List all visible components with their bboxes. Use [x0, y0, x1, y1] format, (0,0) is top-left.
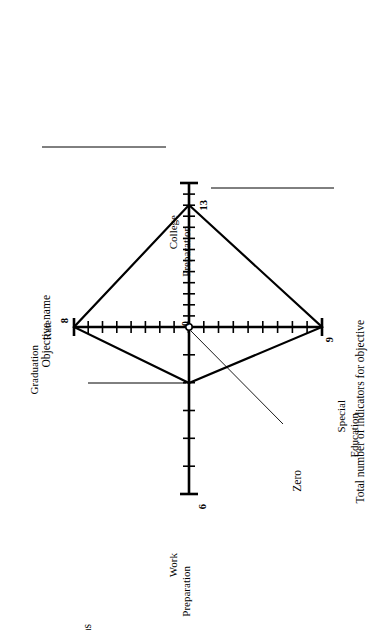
axis-max-value-graduation-rate: 8 [60, 318, 71, 323]
axis-label-college-preparation-line1: College [168, 215, 179, 249]
axis-max-value-college-preparation: 13 [199, 200, 210, 211]
axis-label-special-education-line1: Special [336, 400, 347, 432]
axis-max-value-work-preparation: 6 [198, 504, 209, 509]
axis-label-graduation-rate-line1: Graduation [29, 345, 40, 394]
annotation-indicators-above: Number of indicators above or within exp… [82, 624, 94, 630]
radar-chart-figure: College Preparation 13 Special Education… [0, 0, 372, 630]
origin-zero-label: 0 [181, 321, 192, 326]
axis-max-value-special-education: 9 [325, 337, 336, 342]
axis-label-college-preparation-line2: Preparation [181, 226, 192, 277]
data-polygon [74, 205, 322, 383]
annotation-total-indicators: Total number of indicators for objective [355, 320, 367, 503]
annotation-objective-name: Objective name [41, 295, 53, 367]
axis-label-work-preparation-line2: Preparation [181, 566, 192, 617]
annotation-zero: Zero [292, 470, 304, 492]
axis-label-work-preparation-line1: Work [168, 553, 179, 577]
radar-chart-svg [0, 0, 372, 630]
